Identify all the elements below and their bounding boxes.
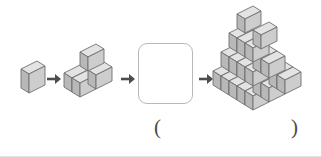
stage-1-single-cube (12, 60, 46, 98)
stage-4-large-pyramid (212, 2, 318, 108)
answer-close-paren: ) (291, 117, 298, 138)
stage-3-blank-answer-box[interactable] (138, 43, 193, 104)
arrow-1 (46, 72, 62, 86)
stage-2-small-pyramid (63, 42, 121, 98)
answer-open-paren: ( (154, 117, 161, 138)
sequence-row (0, 0, 322, 112)
arrow-2 (120, 72, 136, 86)
puzzle-canvas: ( ) (0, 0, 322, 157)
